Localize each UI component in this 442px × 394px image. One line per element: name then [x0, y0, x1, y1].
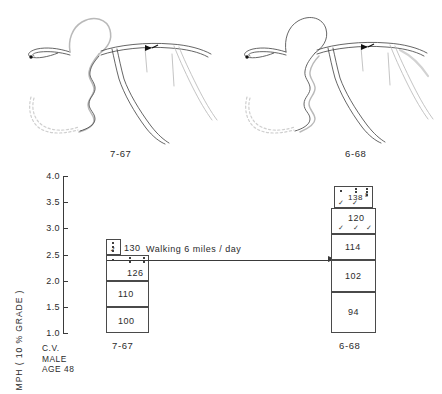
patient-initials: C.V.: [42, 343, 74, 354]
y-tick-1.5: [63, 307, 68, 308]
y-tick-label-2.5: 2.5: [34, 250, 60, 260]
y-tick-label-3.5: 3.5: [34, 197, 60, 207]
bar-7-67-date: 7-67: [112, 340, 133, 351]
y-tick-label-1.5: 1.5: [34, 302, 60, 312]
y-tick-4.0: [63, 176, 68, 177]
y-axis-title: MPH ( 10 % GRADE ): [14, 275, 24, 394]
bar-6-68-date: 6-68: [339, 340, 360, 351]
bar-segment-110-label: 110: [118, 289, 134, 299]
bar-segment-130-label: 130: [124, 243, 141, 253]
y-tick-label-3.0: 3.0: [34, 223, 60, 233]
bar-segment-138-small-label: 8: [365, 193, 368, 198]
bar-segment-100-label: 100: [118, 316, 135, 326]
patient-info: C.V. MALE AGE 48: [42, 343, 74, 375]
bar-segment-102-label: 102: [345, 271, 362, 281]
bar-segment-114-label: 114: [345, 242, 361, 252]
patient-sex: MALE: [42, 354, 74, 365]
followup-angiogram-date: 6-68: [345, 148, 366, 159]
followup-angiogram: [224, 0, 442, 145]
y-tick-label-2.0: 2.0: [34, 276, 60, 286]
y-tick-2.0: [63, 281, 68, 282]
intervention-arrow-line: [107, 260, 332, 261]
bar-segment-120-label: 120: [348, 213, 365, 223]
baseline-angiogram-date: 7-67: [110, 148, 131, 159]
y-tick-1.0: [63, 333, 68, 334]
y-tick-2.5: [63, 255, 68, 256]
y-tick-3.5: [63, 202, 68, 203]
lesion-arrow-icon: [361, 44, 374, 50]
bar-segment-126-label: 126: [127, 268, 144, 278]
y-tick-3.0: [63, 228, 68, 229]
intervention-label: Walking 6 miles / day: [146, 244, 241, 254]
exercise-capacity-chart: MPH ( 10 % GRADE ) 4.0 3.5 3.0 2.5 2.0 1…: [0, 160, 442, 385]
patient-age: AGE 48: [42, 364, 74, 375]
bar-segment-94-label: 94: [348, 307, 359, 317]
baseline-angiogram: [6, 0, 224, 145]
lesion-arrow-icon: [145, 45, 158, 51]
y-tick-label-1.0: 1.0: [34, 328, 60, 338]
y-tick-label-4.0: 4.0: [34, 171, 60, 181]
